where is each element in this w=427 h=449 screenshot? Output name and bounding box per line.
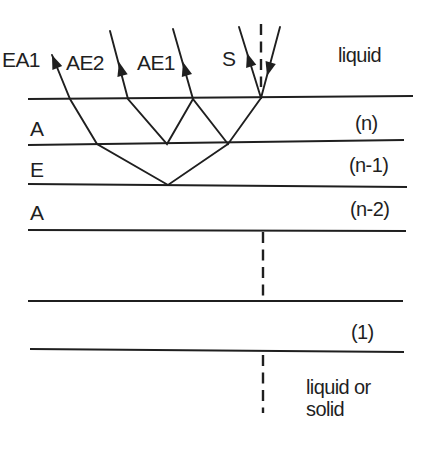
label-liquid: liquid [338, 44, 381, 66]
ray-ae2 [110, 31, 193, 144]
ray-ea1 [52, 55, 228, 185]
interface-1-bottom [30, 349, 404, 352]
label-layer-a-n: A [30, 117, 44, 140]
label-s: S [222, 47, 236, 70]
label-solid: solid [306, 398, 344, 420]
ray-diagram-canvas: EA1AE2AE1SliquidAEA(n)(n-1)(n-2)(1)liqui… [0, 0, 427, 449]
label-ea1: EA1 [2, 48, 40, 71]
label-layer-n-2: (n-2) [350, 198, 389, 220]
arrowhead-s-reflected [246, 53, 256, 68]
interface-n-1-bottom [28, 184, 407, 187]
label-layer-a-n2: A [30, 201, 44, 224]
label-liquid-or: liquid or [306, 376, 372, 398]
label-layer-1: (1) [351, 321, 374, 343]
arrowhead-s-incident [266, 61, 276, 76]
ray-ae1 [173, 29, 261, 144]
label-ae1: AE1 [137, 51, 175, 74]
interface-n-2-bottom [28, 230, 406, 231]
label-ae2: AE2 [66, 51, 104, 74]
label-layer-e: E [30, 158, 44, 181]
label-layer-n: (n) [355, 112, 378, 134]
ray-diagram-figure: EA1AE2AE1SliquidAEA(n)(n-1)(n-2)(1)liqui… [0, 0, 427, 449]
interface-n-top [28, 140, 404, 145]
arrowhead-ea1 [52, 55, 62, 70]
arrowhead-ae2 [117, 62, 127, 77]
arrowhead-ae1 [182, 62, 192, 77]
interface-surface [28, 96, 413, 99]
label-layer-n-1: (n-1) [349, 154, 388, 176]
